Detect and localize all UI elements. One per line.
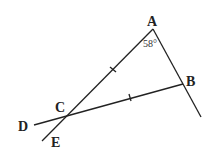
geometry-diagram: A B C D E 58°: [0, 0, 212, 155]
tick-mark-cb: [129, 94, 131, 101]
line-ab: [153, 29, 201, 117]
label-e: E: [51, 135, 60, 150]
label-a: A: [147, 14, 158, 29]
line-ace: [42, 29, 153, 141]
label-b: B: [186, 74, 195, 89]
label-c: C: [55, 100, 65, 115]
angle-label-a: 58°: [143, 38, 157, 49]
label-d: D: [18, 119, 28, 134]
